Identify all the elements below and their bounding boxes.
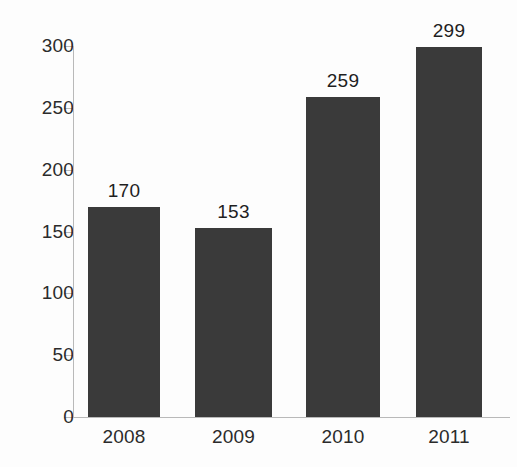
bar[interactable] <box>88 207 160 417</box>
y-axis-line <box>73 46 74 418</box>
bar[interactable] <box>306 97 380 417</box>
bar-value-label: 299 <box>396 21 502 40</box>
bar[interactable] <box>195 228 272 417</box>
x-axis-line <box>73 417 510 418</box>
y-axis-tick-label: 150 <box>16 222 74 241</box>
y-axis-tick-label: 250 <box>16 98 74 117</box>
y-axis-tick-label: 50 <box>16 345 74 364</box>
bar[interactable] <box>416 47 482 417</box>
x-axis-category-label: 2008 <box>63 427 185 446</box>
x-axis-category-label: 2010 <box>281 427 405 446</box>
bar-value-label: 153 <box>175 202 292 221</box>
bar-chart: 050100150200250300 170200815320092592010… <box>0 0 517 467</box>
y-axis-tick-label: 100 <box>16 283 74 302</box>
x-axis-category-label: 2011 <box>391 427 507 446</box>
y-axis-tick-label: 300 <box>16 36 74 55</box>
x-axis-category-label: 2009 <box>170 427 297 446</box>
y-axis-tick-label: 200 <box>16 160 74 179</box>
y-axis-tick-label: 0 <box>16 407 74 426</box>
bar-value-label: 259 <box>286 71 400 90</box>
bar-value-label: 170 <box>68 181 180 200</box>
